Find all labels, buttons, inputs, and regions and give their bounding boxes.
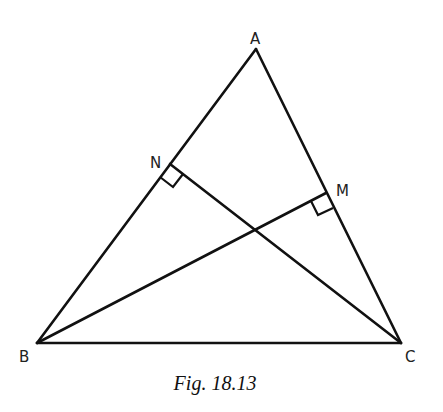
vertex-label-c: C: [405, 348, 415, 366]
right-angle-marker-m: [311, 201, 333, 215]
figure-caption: Fig. 18.13: [0, 372, 430, 395]
side-ac: [256, 49, 401, 343]
vertex-label-b: B: [19, 348, 29, 366]
side-ab: [37, 49, 256, 343]
altitude-cn: [170, 164, 401, 343]
vertex-label-a: A: [250, 30, 261, 48]
altitude-bm: [37, 193, 326, 343]
triangle-diagram: A B C N M: [0, 0, 443, 412]
triangle-figure: A B C N M Fig. 18.13: [0, 0, 443, 412]
vertex-label-n: N: [150, 154, 161, 172]
right-angle-marker-n: [160, 174, 183, 187]
vertex-label-m: M: [336, 182, 349, 200]
